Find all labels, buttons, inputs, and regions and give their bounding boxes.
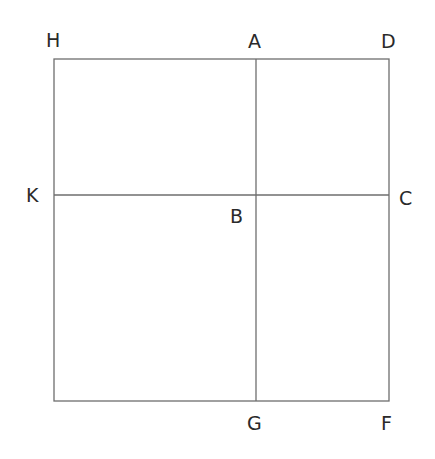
label-C: C xyxy=(399,187,412,209)
label-H: H xyxy=(46,29,60,51)
label-K: K xyxy=(26,184,39,206)
label-F: F xyxy=(381,412,392,434)
geometry-diagram: H A D K B C G F xyxy=(0,0,435,459)
outer-rectangle xyxy=(54,59,389,401)
label-A: A xyxy=(248,30,261,52)
label-D: D xyxy=(381,30,396,52)
label-B: B xyxy=(230,205,243,227)
label-G: G xyxy=(247,412,262,434)
